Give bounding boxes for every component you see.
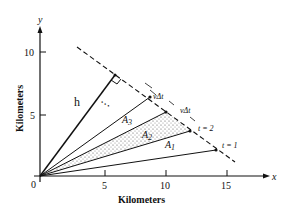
right-angle-icon xyxy=(111,79,121,84)
x-tick-5: 5 xyxy=(102,180,107,191)
axes xyxy=(34,30,266,182)
t1-label: t = 1 xyxy=(222,141,238,150)
diagram-figure: y x 0 10 5 5 10 15 Kilometers Kilometers… xyxy=(0,0,291,218)
vdt-label-2: vΔt xyxy=(180,106,191,115)
y-axis-title: Kilometers xyxy=(14,85,25,132)
x-tick-10: 10 xyxy=(160,180,170,191)
vdt-label-1: vΔt xyxy=(153,92,164,101)
x-axis-arrow-icon xyxy=(263,174,270,179)
h-label: h xyxy=(74,95,80,109)
t2-label: t = 2 xyxy=(198,124,214,133)
origin-label: 0 xyxy=(31,179,36,190)
y-axis-arrow-icon xyxy=(38,26,43,33)
x-tick-15: 15 xyxy=(221,180,231,191)
ticks xyxy=(40,52,227,176)
x-axis-label: x xyxy=(271,171,277,182)
y-tick-10: 10 xyxy=(24,47,34,58)
a1-label: A1 xyxy=(164,139,175,152)
a3-label: A3 xyxy=(121,114,132,127)
y-tick-5: 5 xyxy=(30,110,35,121)
x-axis-title: Kilometers xyxy=(118,194,165,205)
ellipsis-dots: • • • xyxy=(100,99,111,109)
y-axis-label: y xyxy=(37,14,43,25)
